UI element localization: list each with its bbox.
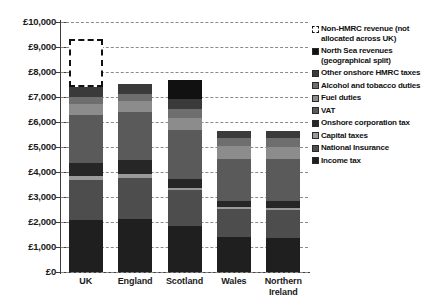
bar-segment-alcohol-and-tobacco-duties[interactable] [69, 97, 103, 104]
chart-legend: Non-HMRC revenue (not allocated across U… [312, 24, 443, 168]
bar-segment-onshore-corporation-tax[interactable] [168, 179, 202, 188]
legend-item[interactable]: Onshore corporation tax [312, 118, 443, 128]
bar-segment-fuel-duties[interactable] [266, 147, 300, 159]
bar-segment-vat[interactable] [217, 159, 251, 201]
bar-segment-onshore-corporation-tax[interactable] [266, 201, 300, 208]
legend-item[interactable]: National Insurance [312, 143, 443, 153]
y-axis-tick-label: £0 [0, 267, 56, 277]
bar-segment-vat[interactable] [69, 115, 103, 163]
bar-segment-fuel-duties[interactable] [118, 101, 152, 112]
bar-segment-vat[interactable] [266, 159, 300, 201]
legend-item[interactable]: VAT [312, 106, 443, 116]
legend-color-swatch-icon [312, 95, 319, 102]
legend-color-swatch-icon [312, 82, 319, 89]
legend-item-label: Fuel duties [321, 93, 361, 103]
bar-segment-fuel-duties[interactable] [168, 118, 202, 130]
bar-segment-north-sea-revenues-geographical-split[interactable] [168, 80, 202, 99]
y-axis-tick-label: £10,000 [0, 17, 56, 27]
plot-area [61, 22, 308, 272]
legend-color-swatch-icon [312, 70, 319, 77]
bar-segment-fuel-duties[interactable] [217, 146, 251, 159]
legend-item-label: Other onshore HMRC taxes [321, 68, 420, 78]
bar-segment-national-insurance[interactable] [168, 190, 202, 226]
bar-segment-national-insurance[interactable] [118, 178, 152, 219]
bar-uk[interactable] [69, 87, 103, 272]
gridline [61, 22, 308, 23]
bar-wales[interactable] [217, 131, 251, 272]
bar-segment-other-onshore-hmrc-taxes[interactable] [69, 87, 103, 97]
bar-scotland[interactable] [168, 80, 202, 273]
legend-item-label: Alcohol and tobacco duties [321, 81, 420, 91]
y-axis-tick-label: £7,000 [0, 92, 56, 102]
bar-segment-national-insurance[interactable] [69, 180, 103, 220]
legend-color-swatch-icon [312, 48, 319, 55]
bar-segment-other-onshore-hmrc-taxes[interactable] [266, 131, 300, 138]
legend-item-label: Onshore corporation tax [321, 118, 410, 128]
legend-dashed-swatch-icon [312, 26, 319, 33]
bar-segment-vat[interactable] [168, 130, 202, 179]
y-axis-tick-label: £1,000 [0, 242, 56, 252]
bar-segment-income-tax[interactable] [69, 220, 103, 272]
bar-segment-onshore-corporation-tax[interactable] [118, 160, 152, 174]
legend-item-label: Non-HMRC revenue (not allocated across U… [321, 24, 443, 43]
legend-item[interactable]: Capital taxes [312, 131, 443, 141]
y-axis-tick-label: £9,000 [0, 42, 56, 52]
bar-segment-vat[interactable] [118, 112, 152, 160]
bar-segment-other-onshore-hmrc-taxes[interactable] [118, 84, 152, 94]
legend-item[interactable]: Fuel duties [312, 93, 443, 103]
bar-segment-other-onshore-hmrc-taxes[interactable] [168, 99, 202, 109]
bar-england[interactable] [118, 84, 152, 272]
bar-segment-alcohol-and-tobacco-duties[interactable] [168, 109, 202, 118]
legend-item[interactable]: Other onshore HMRC taxes [312, 68, 443, 78]
y-axis-tick-label: £3,000 [0, 192, 56, 202]
legend-color-swatch-icon [312, 157, 319, 164]
bar-segment-income-tax[interactable] [217, 237, 251, 272]
y-axis-tick-label: £4,000 [0, 167, 56, 177]
legend-item-label: Income tax [321, 156, 361, 166]
x-axis-label-northern-ireland: Northern Ireland [252, 276, 314, 297]
bar-segment-onshore-corporation-tax[interactable] [69, 163, 103, 176]
y-axis-tick-label: £6,000 [0, 117, 56, 127]
legend-item[interactable]: Income tax [312, 156, 443, 166]
y-axis-tick-label: £5,000 [0, 142, 56, 152]
y-axis-tick-label: £8,000 [0, 67, 56, 77]
bar-northern-ireland[interactable] [266, 131, 300, 272]
legend-item-label: Capital taxes [321, 131, 368, 141]
gridline [61, 272, 308, 273]
bar-segment-income-tax[interactable] [266, 238, 300, 272]
legend-item-label: National Insurance [321, 143, 389, 153]
legend-item[interactable]: Alcohol and tobacco duties [312, 81, 443, 91]
legend-item[interactable]: North Sea revenues (geographical split) [312, 46, 443, 65]
bar-segment-alcohol-and-tobacco-duties[interactable] [118, 94, 152, 101]
bar-segment-non-hmrc-revenue[interactable] [69, 39, 103, 87]
bar-segment-fuel-duties[interactable] [69, 104, 103, 115]
bar-segment-alcohol-and-tobacco-duties[interactable] [217, 138, 251, 146]
legend-color-swatch-icon [312, 132, 319, 139]
bar-segment-alcohol-and-tobacco-duties[interactable] [266, 138, 300, 147]
y-axis-tick-label: £2,000 [0, 217, 56, 227]
stacked-bar-chart: £0£1,000£2,000£3,000£4,000£5,000£6,000£7… [0, 0, 443, 305]
legend-item-label: North Sea revenues (geographical split) [321, 46, 443, 65]
legend-color-swatch-icon [312, 120, 319, 127]
legend-item-label: VAT [321, 106, 335, 116]
legend-color-swatch-icon [312, 107, 319, 114]
bar-segment-income-tax[interactable] [118, 219, 152, 272]
bar-segment-income-tax[interactable] [168, 226, 202, 273]
bar-segment-other-onshore-hmrc-taxes[interactable] [217, 131, 251, 138]
legend-color-swatch-icon [312, 145, 319, 152]
bar-segment-national-insurance[interactable] [266, 210, 300, 238]
bar-segment-national-insurance[interactable] [217, 209, 251, 237]
legend-item[interactable]: Non-HMRC revenue (not allocated across U… [312, 24, 443, 43]
